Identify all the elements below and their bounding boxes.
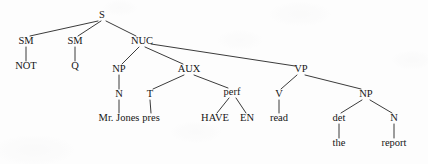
tree-node-not: NOT: [15, 60, 37, 71]
tree-node-sm1: SM: [18, 35, 34, 46]
tree-node-n1: N: [115, 88, 123, 99]
tree-edge-s-to-nuc: [106, 21, 136, 36]
tree-node-report: report: [381, 137, 406, 148]
tree-label-group: SSMSMNUCNOTQNPAUXVPNTperfVNPMr. Jonespre…: [15, 9, 406, 148]
tree-node-pres: pres: [142, 112, 160, 123]
tree-edge-np2-to-n2: [370, 100, 392, 113]
tree-node-np2: NP: [359, 88, 373, 99]
tree-node-the: the: [333, 137, 346, 148]
tree-node-mrjones: Mr. Jones: [99, 112, 140, 123]
tree-node-t: T: [147, 88, 154, 99]
tree-node-n2: N: [390, 112, 398, 123]
tree-node-sm2: SM: [67, 35, 83, 46]
tree-edge-vp-to-np2: [305, 75, 361, 89]
tree-edge-nuc-to-aux: [145, 47, 183, 64]
tree-node-nuc: NUC: [131, 35, 153, 46]
tree-node-np1: NP: [112, 63, 126, 74]
tree-node-det: det: [333, 112, 346, 123]
syntax-tree-figure: SSMSMNUCNOTQNPAUXVPNTperfVNPMr. Jonespre…: [0, 0, 428, 164]
tree-edge-s-to-sm1: [30, 21, 98, 36]
tree-node-v: V: [275, 88, 283, 99]
tree-node-perf: perf: [224, 86, 241, 97]
tree-edge-aux-to-t: [153, 75, 184, 89]
tree-node-s: S: [99, 9, 105, 20]
tree-edge-perf-to-en: [236, 98, 246, 113]
tree-edge-nuc-to-np1: [122, 47, 139, 64]
tree-node-have: HAVE: [201, 112, 229, 123]
tree-node-read: read: [270, 112, 289, 123]
tree-edge-perf-to-have: [217, 98, 229, 113]
tree-node-q: Q: [71, 60, 79, 71]
tree-edge-nuc-to-vp: [151, 44, 295, 66]
tree-edge-vp-to-v: [281, 75, 297, 89]
tree-node-vp: VP: [294, 63, 308, 74]
tree-node-en: EN: [240, 112, 254, 123]
tree-node-aux: AUX: [178, 63, 201, 74]
